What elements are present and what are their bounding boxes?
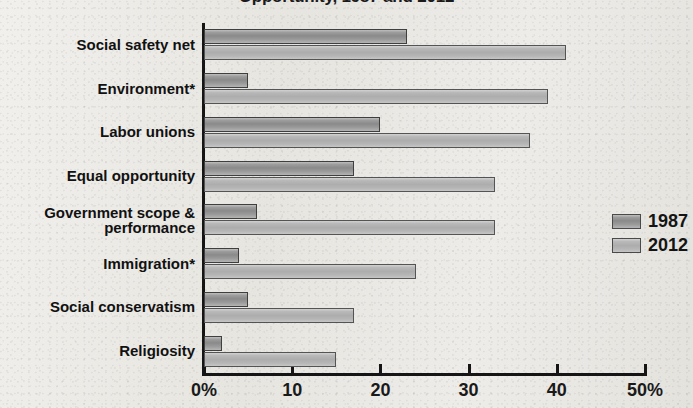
bar-group: Social conservatism <box>204 286 645 330</box>
bar-2012 <box>204 133 530 148</box>
category-label: Social conservatism <box>5 300 195 315</box>
bar-group: Equal opportunity <box>204 154 645 198</box>
x-tick-label-40: 40 <box>547 380 567 401</box>
bar-2012 <box>204 308 354 323</box>
bar-group: Government scope & performance <box>204 198 645 242</box>
x-tick-label-30: 30 <box>459 380 479 401</box>
bar-1987 <box>204 248 239 263</box>
chart-title: Opportunity, 1987 and 2012 <box>0 0 693 7</box>
bar-group: Social safety net <box>204 23 645 67</box>
x-tick-label-50: 50% <box>627 380 663 401</box>
legend-item-2012: 2012 <box>612 236 690 254</box>
category-label: Labor unions <box>5 125 195 140</box>
plot-area: 0%1020304050% Social safety netEnvironme… <box>204 23 645 373</box>
bar-1987 <box>204 204 257 219</box>
bar-2012 <box>204 352 336 367</box>
bar-group: Immigration* <box>204 242 645 286</box>
legend-label-1987: 1987 <box>648 212 688 230</box>
category-label: Environment* <box>5 81 195 96</box>
bar-1987 <box>204 161 354 176</box>
bar-group: Labor unions <box>204 111 645 155</box>
bar-2012 <box>204 264 416 279</box>
category-label: Social safety net <box>5 37 195 52</box>
bar-2012 <box>204 177 495 192</box>
x-tick-label-20: 20 <box>370 380 390 401</box>
bar-chart: Opportunity, 1987 and 2012 0%1020304050%… <box>0 0 693 408</box>
legend-item-1987: 1987 <box>612 212 690 230</box>
legend-swatch-1987 <box>612 214 641 229</box>
bar-group: Religiosity <box>204 329 645 373</box>
bar-1987 <box>204 73 248 88</box>
chart-legend: 1987 2012 <box>612 212 690 260</box>
category-label: Equal opportunity <box>5 168 195 183</box>
bar-2012 <box>204 89 548 104</box>
category-label: Immigration* <box>5 256 195 271</box>
bar-2012 <box>204 220 495 235</box>
x-tick-label-0: 0% <box>191 380 217 401</box>
legend-label-2012: 2012 <box>648 236 688 254</box>
category-label: Government scope & performance <box>5 204 195 235</box>
bar-1987 <box>204 29 407 44</box>
bar-1987 <box>204 336 222 351</box>
bar-2012 <box>204 45 566 60</box>
x-tick-label-10: 10 <box>282 380 302 401</box>
bar-1987 <box>204 292 248 307</box>
bar-group: Environment* <box>204 67 645 111</box>
bar-1987 <box>204 117 380 132</box>
legend-swatch-2012 <box>612 238 641 253</box>
x-axis-line <box>202 373 647 376</box>
category-label: Religiosity <box>5 343 195 358</box>
